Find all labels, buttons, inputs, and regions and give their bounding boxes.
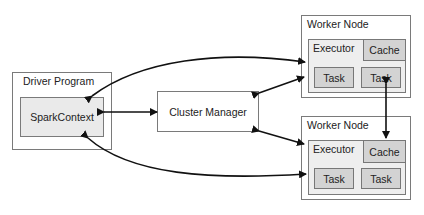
arrow-driver-worker1 bbox=[92, 57, 305, 96]
arrow-driver-worker2 bbox=[88, 138, 306, 176]
arrow-cluster-worker2 bbox=[259, 131, 304, 144]
arrow-cluster-worker1 bbox=[259, 77, 304, 93]
connection-arrows bbox=[0, 0, 424, 215]
